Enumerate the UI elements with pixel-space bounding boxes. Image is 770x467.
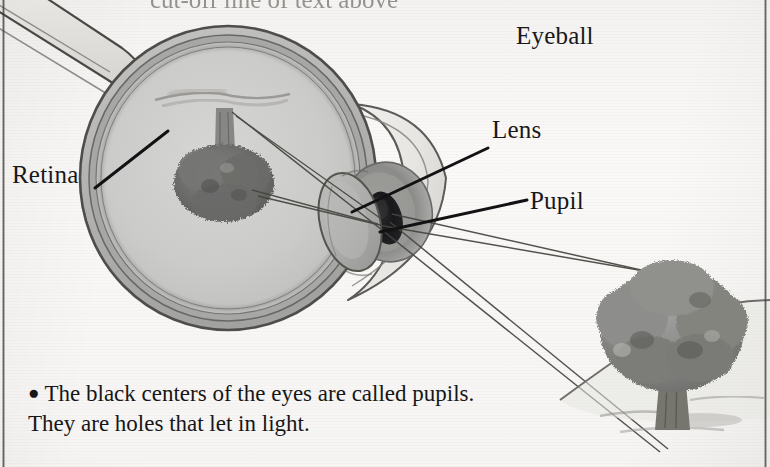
label-eyeball: Eyeball	[516, 22, 594, 50]
page-edge-left	[2, 0, 5, 467]
caption-body: The black centers of the eyes are called…	[28, 381, 474, 436]
label-retina: Retina	[12, 161, 78, 189]
caption-text: ●The black centers of the eyes are calle…	[28, 378, 498, 439]
page-edge-right	[764, 0, 767, 467]
bullet-icon: ●	[28, 382, 44, 403]
label-lens: Lens	[492, 116, 541, 144]
scanned-page: cut-off line of text above	[0, 0, 770, 467]
tree-object	[560, 260, 770, 432]
label-pupil: Pupil	[530, 187, 584, 215]
